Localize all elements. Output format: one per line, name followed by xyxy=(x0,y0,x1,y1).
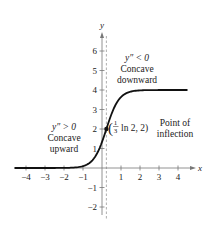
y-axis-label: y xyxy=(99,20,104,30)
svg-text:−2: −2 xyxy=(87,202,97,212)
y-axis-arrow-icon xyxy=(100,32,104,38)
logistic-chart: x y −4−3−2−11234654321−1−2 y″ < 0 Concav… xyxy=(0,0,208,232)
svg-text:−2: −2 xyxy=(59,172,69,182)
annotation-concave-up: y″ > 0 Concave upward xyxy=(47,122,80,154)
svg-text:Concave: Concave xyxy=(47,133,80,143)
x-axis-arrow-icon xyxy=(190,166,196,170)
svg-text:3: 3 xyxy=(93,105,98,115)
svg-text:−4: −4 xyxy=(21,172,31,182)
svg-text:1: 1 xyxy=(114,119,118,127)
svg-text:(: ( xyxy=(108,120,113,137)
svg-text:inflection: inflection xyxy=(157,129,194,139)
svg-text:5: 5 xyxy=(93,66,98,76)
svg-text:Point of: Point of xyxy=(160,118,191,128)
inflection-coordinate-label: ( 1 3 ln 2, 2) xyxy=(108,119,148,138)
svg-text:4: 4 xyxy=(93,85,98,95)
svg-text:−1: −1 xyxy=(78,172,88,182)
svg-text:1: 1 xyxy=(119,172,124,182)
svg-text:downward: downward xyxy=(117,75,157,85)
svg-text:y″ > 0: y″ > 0 xyxy=(51,122,76,132)
svg-text:−3: −3 xyxy=(40,172,50,182)
svg-text:y″ < 0: y″ < 0 xyxy=(124,53,149,63)
svg-text:6: 6 xyxy=(93,46,98,56)
annotation-concave-down: y″ < 0 Concave downward xyxy=(117,53,157,85)
svg-text:4: 4 xyxy=(176,172,181,182)
svg-text:3: 3 xyxy=(157,172,162,182)
svg-text:3: 3 xyxy=(114,127,118,135)
svg-text:upward: upward xyxy=(50,144,79,154)
svg-text:2: 2 xyxy=(93,124,98,134)
x-axis-label: x xyxy=(197,163,202,173)
svg-text:1: 1 xyxy=(93,144,98,154)
svg-text:2: 2 xyxy=(138,172,143,182)
svg-text:ln 2, 2): ln 2, 2) xyxy=(121,123,148,134)
annotation-inflection: Point of inflection xyxy=(157,118,194,139)
svg-text:Concave: Concave xyxy=(120,64,153,74)
svg-text:−1: −1 xyxy=(87,183,97,193)
